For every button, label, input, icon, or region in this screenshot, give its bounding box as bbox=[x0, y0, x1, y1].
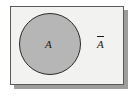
set-a-label: A bbox=[45, 39, 52, 50]
overbar-icon bbox=[97, 36, 104, 37]
venn-diagram-figure: A A bbox=[0, 0, 136, 98]
set-a-complement-label-text: A bbox=[97, 39, 104, 50]
set-a-complement-label: A bbox=[97, 39, 104, 50]
universal-set-box: A A bbox=[10, 6, 124, 85]
set-a-label-text: A bbox=[45, 39, 52, 50]
